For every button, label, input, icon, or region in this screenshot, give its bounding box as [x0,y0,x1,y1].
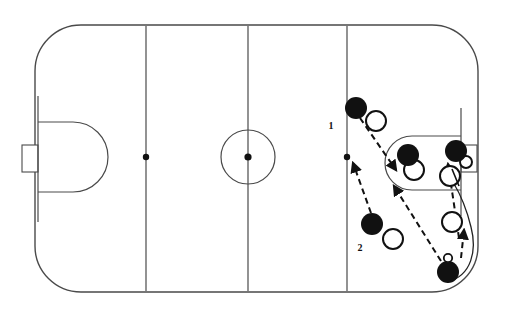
center-ice-dot [244,153,251,160]
right-neutral-dot [344,154,350,160]
player-filled-slot [397,144,419,166]
left-neutral-dot [143,154,149,160]
label-2: 2 [358,242,363,253]
player-filled-net-front [445,140,467,162]
rink-svg: 1 2 [0,0,505,312]
player-filled-corner [437,261,459,283]
puck [444,254,452,262]
player-filled-low [361,213,383,235]
label-1: 1 [329,120,334,131]
left-goal-net [22,145,38,172]
hockey-rink-diagram: 1 2 [0,0,505,312]
player-open-low [383,229,403,249]
player-filled-point [345,97,367,119]
player-open-point [366,111,386,131]
player-open-halfwall [442,212,462,232]
